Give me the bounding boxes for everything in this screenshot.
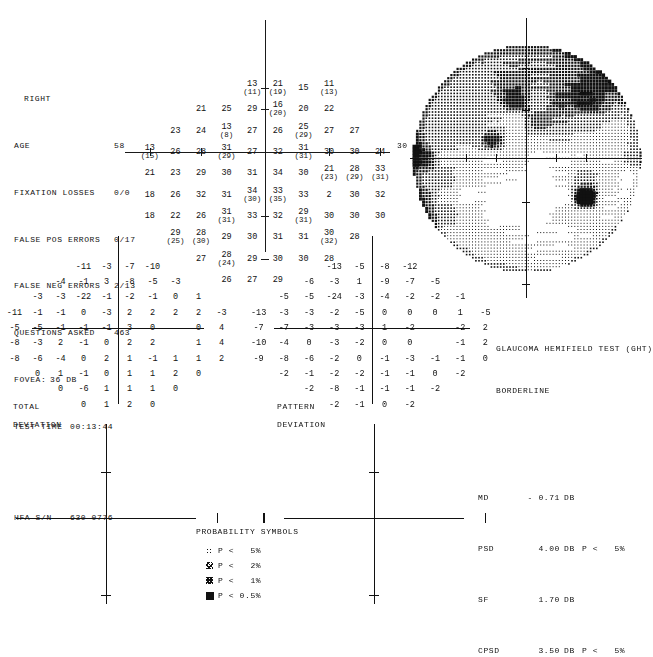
pattern_deviation-value: -7: [279, 324, 289, 333]
sensitivity-value: 31: [221, 190, 231, 199]
pattern_deviation-value: -8: [279, 354, 289, 363]
legend-item: P < 1%: [196, 573, 299, 588]
sensitivity-value: 34: [273, 169, 283, 178]
sensitivity-db: 18: [145, 190, 155, 199]
pattern_deviation-value: 0: [432, 369, 437, 378]
sensitivity-retest-db: (23): [320, 173, 338, 182]
sensitivity-db: 22: [324, 105, 334, 114]
grayscale-tick: [496, 154, 497, 162]
total_deviation-value: -1: [78, 278, 88, 287]
global-indices-block: MD- 0.71DB PSD4.00DBP < 5% SF1.70DB CPSD…: [478, 455, 625, 657]
total_deviation-value: -1: [101, 293, 111, 302]
sensitivity-value: 24: [375, 148, 385, 157]
grayscale-tick: [586, 154, 587, 162]
total_deviation-value: -6: [32, 354, 42, 363]
probability-symbols-legend: PROBABILITY SYMBOLS P < 5% P < 2% P < 1%…: [196, 527, 299, 603]
total_deviation-value: 0: [173, 385, 178, 394]
sensitivity-value: 30: [221, 169, 231, 178]
sensitivity-value: 15: [298, 84, 308, 93]
pattern_deviation-value: -1: [354, 385, 364, 394]
pattern_deviation-value: 0: [432, 308, 437, 317]
total_deviation-value: -11: [76, 262, 91, 271]
sensitivity-db: 23: [170, 169, 180, 178]
legend-title: PROBABILITY SYMBOLS: [196, 527, 299, 536]
pattern_deviation-value: -2: [405, 293, 415, 302]
sensitivity-value: 31(29): [218, 144, 236, 161]
sensitivity-retest-db: (31): [294, 152, 312, 161]
total_deviation-value: -5: [32, 324, 42, 333]
sensitivity-db: 27: [247, 126, 257, 135]
pattern_deviation-value: -2: [455, 369, 465, 378]
sensitivity-retest-db: (20): [269, 109, 287, 118]
index-name: CPSD: [478, 642, 508, 657]
sensitivity-value: 26: [196, 211, 206, 220]
sensitivity-value: 21: [196, 105, 206, 114]
total_deviation-value: -8: [9, 339, 19, 348]
sensitivity-db: 27: [349, 126, 359, 135]
pattern_deviation-value: -4: [379, 293, 389, 302]
total_deviation-value: -11: [7, 308, 22, 317]
eye-label: RIGHT: [14, 91, 136, 107]
sensitivity-value: 32: [196, 190, 206, 199]
grayscale-tick: [522, 110, 530, 111]
prob-1-percent-icon: [206, 577, 218, 584]
sensitivity-retest-db: (8): [220, 130, 234, 139]
total_deviation-value: -8: [124, 278, 134, 287]
sensitivity-value: 28(24): [218, 250, 236, 267]
sensitivity-db: 24: [196, 126, 206, 135]
sensitivity-db: 30: [349, 190, 359, 199]
sensitivity-retest-db: (35): [269, 194, 287, 203]
sensitivity-value: 31: [247, 169, 257, 178]
total_deviation-value: 1: [196, 293, 201, 302]
index-unit: DB: [560, 489, 582, 506]
pattern_deviation-value: -1: [405, 385, 415, 394]
pattern_deviation-value: -2: [329, 308, 339, 317]
sensitivity-db: 22: [170, 211, 180, 220]
sensitivity-db: 32: [196, 190, 206, 199]
sensitivity-db: 27: [247, 148, 257, 157]
pattern_deviation-value: -3: [329, 324, 339, 333]
sensitivity-db: 26: [273, 126, 283, 135]
pattern_deviation-value: -6: [304, 354, 314, 363]
pattern_deviation-value: 0: [407, 308, 412, 317]
param-value: 58: [114, 138, 125, 154]
sensitivity-retest-db: (30): [243, 194, 261, 203]
pattern_deviation-value: -1: [430, 354, 440, 363]
probability-axis-tick: [101, 595, 111, 596]
total_deviation-value: -1: [55, 324, 65, 333]
sensitivity-value: 30: [349, 190, 359, 199]
pattern_deviation-value: -24: [327, 293, 342, 302]
sensitivity-db: 29: [221, 233, 231, 242]
sensitivity-value: 33(35): [269, 186, 287, 203]
total_deviation-value: -1: [147, 293, 157, 302]
sensitivity-retest-db: (19): [269, 88, 287, 97]
legend-item: P < 2%: [196, 558, 299, 573]
pattern_deviation-value: 0: [407, 339, 412, 348]
index-probability: P < 5%: [582, 540, 625, 557]
pattern_deviation-value: -9: [379, 278, 389, 287]
total_deviation-value: 1: [196, 354, 201, 363]
grayscale-tick: [522, 68, 530, 69]
total_deviation-value: -1: [32, 308, 42, 317]
sensitivity-value: 28: [196, 148, 206, 157]
total_deviation-value: 0: [196, 324, 201, 333]
sensitivity-retest-db: (31): [218, 215, 236, 224]
sensitivity-value: 29: [221, 233, 231, 242]
sensitivity-db: 30: [247, 233, 257, 242]
total_deviation-value: 2: [127, 339, 132, 348]
sensitivity-value: 32: [375, 190, 385, 199]
grayscale-degree-label: 30: [397, 141, 408, 150]
sensitivity-value: 24: [196, 126, 206, 135]
ght-title: GLAUCOMA HEMIFIELD TEST (GHT): [496, 342, 653, 356]
pattern_deviation-value: -2: [455, 324, 465, 333]
sensitivity-db: 26: [221, 275, 231, 284]
index-probability: P < 5%: [582, 642, 625, 657]
total_deviation-value: 2: [173, 308, 178, 317]
prob-5-percent-icon: [206, 548, 218, 554]
probability-axis-tick: [369, 472, 379, 473]
sensitivity-value: 27: [247, 148, 257, 157]
total_deviation-value: -6: [78, 385, 88, 394]
sensitivity-db: 30: [324, 211, 334, 220]
total_deviation-value: 0: [35, 369, 40, 378]
sensitivity-value: 30: [324, 148, 334, 157]
